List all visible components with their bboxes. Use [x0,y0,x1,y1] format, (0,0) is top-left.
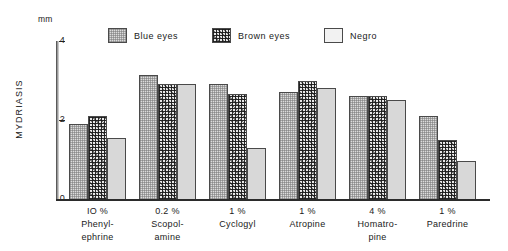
bar-group [139,41,196,199]
x-axis-category-label: 1 %Atropine [268,205,348,231]
bar [368,96,387,199]
x-axis-concentration: 4 % [338,205,418,218]
bar [419,116,438,199]
bar-group [279,41,336,199]
x-axis-category-label: 1 %Paredrine [408,205,488,231]
bar [88,116,107,199]
x-axis-category-label: IO %Phenyl- ephrine [58,205,138,244]
x-axis-category-label: 1 %Cyclogyl [198,205,278,231]
bar [139,75,158,199]
bar [457,161,476,199]
bar [69,124,88,199]
bar [158,84,177,199]
x-axis-category-label: 4 %Homatro- pine [338,205,418,244]
bar-group [419,41,476,199]
bar [349,96,368,199]
bar [228,94,247,199]
x-axis-concentration: 0.2 % [128,205,208,218]
bar-group [69,41,126,199]
legend-label: Blue eyes [134,31,178,41]
bar [209,84,228,199]
x-axis-drug-name: Phenyl- ephrine [58,218,138,244]
x-axis-line [56,199,490,201]
x-axis-drug-name: Paredrine [408,218,488,231]
x-axis-drug-name: Cyclogyl [198,218,278,231]
bar [177,84,196,199]
x-axis-concentration: 1 % [198,205,278,218]
x-axis-category-label: 0.2 %Scopol- amine [128,205,208,244]
bar [387,100,406,199]
bar [438,140,457,199]
legend-label: Negro [350,31,377,41]
bar [279,92,298,199]
legend-label: Brown eyes [238,31,290,41]
bar-group [349,41,406,199]
x-axis-drug-name: Atropine [268,218,348,231]
y-axis-title: MYDRIASIS [14,54,24,164]
x-axis-concentration: 1 % [268,205,348,218]
x-axis-concentration: IO % [58,205,138,218]
bar [107,138,126,199]
bar [298,81,317,200]
x-axis-drug-name: Homatro- pine [338,218,418,244]
x-axis-drug-name: Scopol- amine [128,218,208,244]
plot-area [60,41,490,199]
x-axis-labels: IO %Phenyl- ephrine0.2 %Scopol- amine1 %… [60,205,490,249]
bar-group [209,41,266,199]
x-axis-concentration: 1 % [408,205,488,218]
y-axis-unit-label: mm [38,14,53,24]
mydriasis-bar-chart: mm 024 MYDRIASIS Blue eyesBrown eyesNegr… [0,0,508,251]
bar [317,88,336,199]
bar [247,148,266,199]
